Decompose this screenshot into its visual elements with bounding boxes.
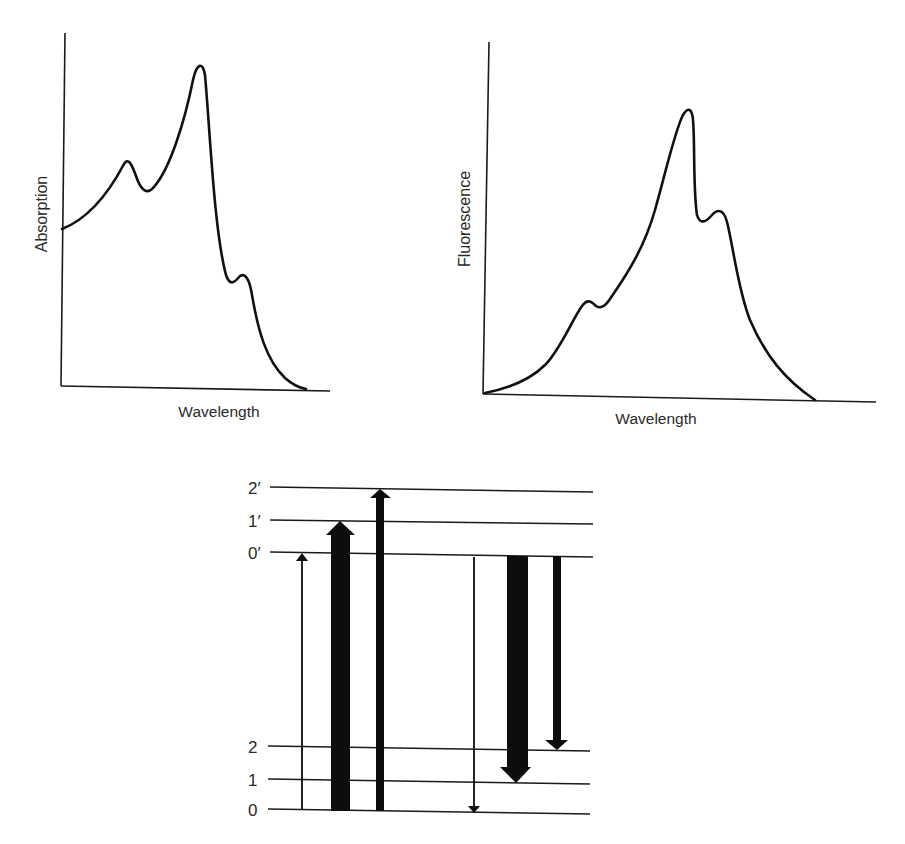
fluorescence-plot: Fluorescence Wavelength	[456, 42, 876, 427]
absorption-arrow-weak-icon	[296, 553, 308, 810]
label-0prime: 0′	[248, 544, 261, 563]
absorption-arrow-strong-icon	[326, 521, 355, 811]
level-0	[268, 809, 590, 814]
absorption-curve	[62, 66, 306, 389]
label-0: 0	[248, 801, 257, 820]
absorption-y-axis	[61, 33, 65, 386]
label-2: 2	[248, 738, 257, 757]
fluorescence-xlabel: Wavelength	[615, 410, 696, 427]
absorption-plot: Absorption Wavelength	[33, 33, 330, 420]
absorption-xlabel: Wavelength	[178, 403, 259, 420]
energy-level-diagram: 2′ 1′ 0′ 2 1 0	[248, 479, 593, 820]
level-2	[268, 746, 590, 751]
emission-arrow-weak-icon	[468, 557, 480, 813]
fluorescence-y-axis	[483, 42, 489, 394]
level-1prime	[270, 520, 593, 524]
fluorescence-curve	[485, 110, 815, 400]
absorption-ylabel: Absorption	[33, 176, 50, 253]
level-0prime	[270, 552, 593, 557]
label-1prime: 1′	[248, 512, 261, 531]
label-2prime: 2′	[248, 479, 261, 498]
emission-arrow-medium-icon	[545, 556, 568, 750]
fluorescence-ylabel: Fluorescence	[456, 171, 473, 267]
absorption-x-axis	[61, 386, 330, 391]
spectra-figure: Absorption Wavelength Fluorescence Wavel…	[0, 0, 905, 844]
level-2prime	[270, 487, 593, 492]
label-1: 1	[248, 771, 257, 790]
level-1	[268, 779, 590, 784]
fluorescence-x-axis	[483, 394, 876, 402]
absorption-arrow-medium-icon	[370, 489, 391, 811]
